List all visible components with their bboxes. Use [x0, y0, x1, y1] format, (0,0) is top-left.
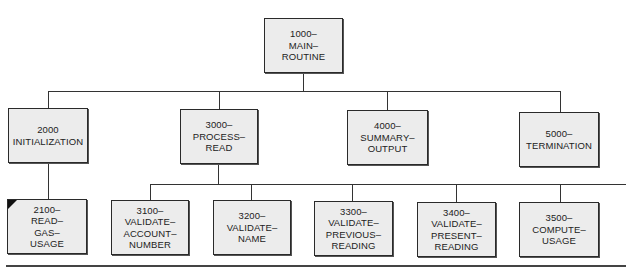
node-label-line: 3100–	[137, 205, 164, 217]
connector-to-3300	[352, 184, 353, 201]
connector-to-2000	[48, 91, 49, 108]
node-label-line: READING	[435, 241, 479, 253]
connector-level2-bar	[48, 91, 561, 92]
connector-level3-bar	[150, 184, 626, 185]
node-label-line: READ	[206, 142, 233, 154]
node-label-line: GAS–	[34, 227, 60, 239]
node-label-line: 3400–	[443, 207, 470, 219]
node-label-line: OUTPUT	[368, 143, 408, 155]
node-label-line: USAGE	[30, 238, 64, 250]
node-label-line: NUMBER	[129, 239, 171, 251]
connector-to-3200	[251, 184, 252, 200]
node-label-line: 4000–	[374, 120, 401, 132]
node-2100-read-gas-usage: 2100– READ– GAS– USAGE	[7, 199, 87, 254]
connector-to-3000	[219, 91, 220, 109]
connector-root-down	[303, 73, 304, 92]
node-label-line: COMPUTE–	[532, 224, 586, 236]
node-label-line: 2100–	[34, 204, 61, 216]
node-3200-validate-name: 3200– VALIDATE– NAME	[213, 200, 291, 255]
connector-to-3100	[150, 184, 151, 200]
node-3100-validate-account-number: 3100– VALIDATE– ACCOUNT– NUMBER	[111, 200, 189, 255]
connector-to-4000	[387, 91, 388, 110]
node-label-line: VALIDATE–	[328, 217, 379, 229]
node-label-line: VALIDATE–	[227, 222, 278, 234]
node-label-line: PROCESS–	[193, 131, 246, 143]
node-label-line: 3500–	[546, 212, 573, 224]
connector-to-3400	[456, 184, 457, 202]
node-label-line: INITIALIZATION	[13, 136, 83, 148]
node-1000-main-routine: 1000– MAIN– ROUTINE	[264, 18, 343, 73]
connector-3000-down	[218, 164, 219, 184]
node-label-line: PREVIOUS–	[326, 229, 381, 241]
node-label-line: VALIDATE–	[431, 218, 482, 230]
node-2000-initialization: 2000 INITIALIZATION	[8, 108, 88, 163]
node-label-line: SUMMARY–	[360, 132, 414, 144]
connector-2000-to-2100	[48, 163, 49, 199]
node-label-line: READING	[332, 240, 376, 252]
node-3400-validate-present-reading: 3400– VALIDATE– PRESENT– READING	[417, 202, 496, 257]
node-label-line: MAIN–	[289, 40, 319, 52]
corner-marker-icon	[8, 200, 17, 209]
connector-to-3500	[560, 184, 561, 202]
node-label-line: ROUTINE	[282, 51, 325, 63]
node-label-line: 1000–	[290, 28, 317, 40]
node-label-line: ACCOUNT–	[123, 228, 176, 240]
node-label-line: 3200–	[239, 210, 266, 222]
node-label-line: TERMINATION	[526, 140, 592, 152]
node-label-line: 5000–	[546, 128, 573, 140]
node-label-line: USAGE	[542, 235, 576, 247]
node-label-line: PRESENT–	[431, 230, 482, 242]
node-label-line: NAME	[238, 233, 266, 245]
node-label-line: VALIDATE–	[125, 216, 176, 228]
connector-to-5000	[560, 91, 561, 112]
node-label-line: 3000–	[206, 119, 233, 131]
node-label-line: 3300–	[340, 206, 367, 218]
bottom-rule	[6, 265, 626, 267]
node-5000-termination: 5000– TERMINATION	[519, 112, 599, 167]
node-label-line: 2000	[37, 124, 59, 136]
node-label-line: READ–	[31, 215, 63, 227]
node-3000-process-read: 3000– PROCESS– READ	[180, 109, 258, 164]
node-3300-validate-previous-reading: 3300– VALIDATE– PREVIOUS– READING	[314, 201, 393, 256]
node-3500-compute-usage: 3500– COMPUTE– USAGE	[519, 202, 599, 257]
node-4000-summary-output: 4000– SUMMARY– OUTPUT	[347, 110, 428, 165]
